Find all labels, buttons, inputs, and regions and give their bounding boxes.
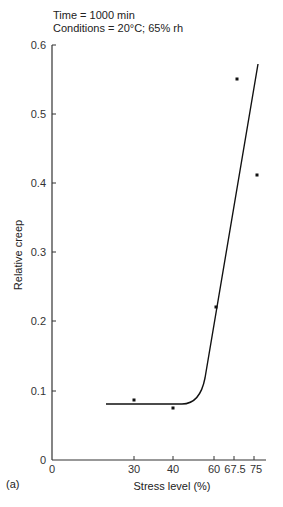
- x-tick-67.5: 67.5: [224, 463, 245, 475]
- y-axis-title: Relative creep: [12, 220, 24, 290]
- x-tick-0: 0: [49, 463, 55, 475]
- data-points: [133, 78, 259, 410]
- x-tick-60: 60: [208, 463, 220, 475]
- y-tick-0.2: 0.2: [31, 315, 46, 327]
- y-tick-0.6: 0.6: [31, 39, 46, 51]
- y-tick-0.1: 0.1: [31, 385, 46, 397]
- y-tick-0: 0: [40, 454, 46, 466]
- x-tick-40: 40: [167, 463, 179, 475]
- data-point-30: [133, 399, 136, 402]
- chart-plot: 0 0.1 0.2 0.3 0.4 0.5 0.6 Relative creep…: [0, 0, 283, 507]
- y-tick-0.4: 0.4: [31, 177, 46, 189]
- x-axis-title: Stress level (%): [133, 480, 210, 492]
- x-tick-30: 30: [128, 463, 140, 475]
- data-point-75: [256, 174, 259, 177]
- y-axis: 0 0.1 0.2 0.3 0.4 0.5 0.6 Relative creep: [12, 39, 56, 466]
- data-point-67.5: [236, 78, 239, 81]
- x-axis: 0 30 40 60 67.5 75 Stress level (%): [49, 456, 266, 492]
- data-point-60: [215, 306, 218, 309]
- y-tick-0.5: 0.5: [31, 108, 46, 120]
- y-tick-0.3: 0.3: [31, 246, 46, 258]
- trend-line: [106, 64, 258, 404]
- x-tick-75: 75: [250, 463, 262, 475]
- panel-label: (a): [6, 478, 19, 490]
- data-point-40: [172, 407, 175, 410]
